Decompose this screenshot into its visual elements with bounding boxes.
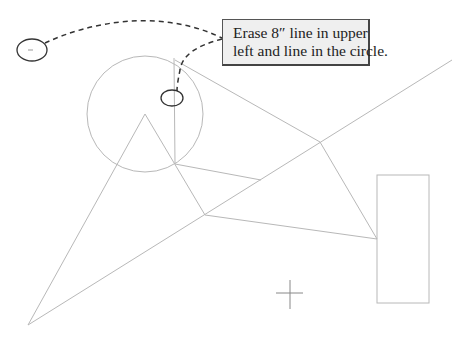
right-vertex-to-rect-line <box>320 142 377 239</box>
bottom-vertex-to-rect-line <box>205 215 377 239</box>
callout-note-box: Erase 8″ line in upper left and line in … <box>222 19 370 66</box>
long-diagonal-line <box>28 60 452 325</box>
rectangle-shape <box>377 175 429 303</box>
triangle-left-edge <box>28 114 145 325</box>
vertical-line-in-circle <box>174 58 175 164</box>
dashed-leader-upper-left <box>45 21 222 43</box>
crosshair-cursor-icon <box>276 280 303 309</box>
annotation-ellipse-in-circle <box>161 90 183 106</box>
top-to-right-vertex-line <box>175 60 320 142</box>
drawing-canvas: Erase 8″ line in upper left and line in … <box>0 0 465 338</box>
callout-line-2: left and line in the circle. <box>233 42 368 60</box>
callout-line-1: Erase 8″ line in upper <box>233 24 368 42</box>
junction-to-diagonal-line <box>175 164 261 180</box>
